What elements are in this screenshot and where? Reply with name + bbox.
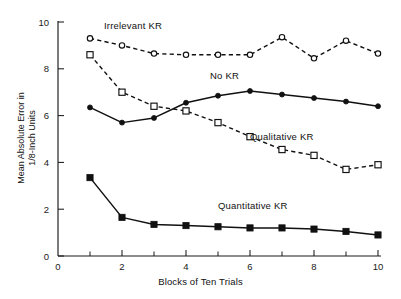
data-point-marker (279, 35, 284, 40)
series-label-quantitative-kr: Quantitative KR (218, 200, 288, 211)
series-label-no-kr: No KR (210, 70, 239, 81)
data-point-marker (119, 214, 125, 220)
data-point-marker (247, 225, 253, 231)
data-point-marker (119, 43, 124, 48)
data-point-marker (375, 51, 380, 56)
data-point-marker (183, 52, 188, 57)
data-point-marker (216, 93, 221, 98)
data-point-marker (312, 96, 317, 101)
series-label-irrelevant-kr: Irrelevant KR (104, 20, 162, 31)
x-axis-tick-label: 0 (55, 261, 60, 272)
data-point-marker (87, 36, 92, 41)
data-point-marker (311, 56, 316, 61)
data-point-marker (87, 175, 93, 181)
series-line (90, 37, 378, 58)
data-point-marker (375, 162, 381, 168)
x-axis-tick-label: 8 (311, 261, 316, 272)
data-point-marker (184, 100, 189, 105)
data-point-marker (183, 108, 189, 114)
data-point-marker (248, 89, 253, 94)
data-point-marker (311, 226, 317, 232)
data-point-marker (343, 166, 349, 172)
data-point-marker (152, 115, 157, 120)
data-point-marker (215, 52, 220, 57)
data-point-marker (151, 103, 157, 109)
series-no-kr (88, 89, 381, 126)
series-line (90, 91, 378, 123)
data-point-marker (279, 225, 285, 231)
chart-plot-area: 02468100246810 (0, 0, 401, 299)
series-irrelevant-kr (87, 35, 380, 61)
y-axis-title-line-1: Mean Absolute Error in (16, 53, 27, 223)
x-axis-tick-label: 4 (183, 261, 188, 272)
data-point-marker (151, 51, 156, 56)
data-point-marker (151, 221, 157, 227)
data-point-marker (183, 222, 189, 228)
y-axis-tick-label: 4 (44, 157, 49, 168)
chart-container: 02468100246810 Irrelevant KRNo KRQualita… (0, 0, 401, 299)
x-axis-title: Blocks of Ten Trials (0, 276, 401, 287)
data-point-marker (376, 104, 381, 109)
data-point-marker (247, 52, 252, 57)
data-point-marker (88, 105, 93, 110)
data-point-marker (279, 146, 285, 152)
y-axis-title: Mean Absolute Error in 1/8-Inch Units (16, 53, 38, 223)
x-axis-tick-label: 10 (373, 261, 384, 272)
data-point-marker (119, 89, 125, 95)
data-point-marker (343, 38, 348, 43)
y-axis-tick-label: 8 (44, 63, 49, 74)
y-axis-tick-label: 10 (38, 17, 49, 28)
series-label-qualitative-kr: Qualitative KR (250, 131, 314, 142)
data-point-marker (120, 120, 125, 125)
y-axis-tick-label: 0 (44, 251, 49, 262)
y-axis-title-line-2: 1/8-Inch Units (27, 53, 38, 223)
x-axis-tick-label: 2 (119, 261, 124, 272)
y-axis-tick-label: 2 (44, 204, 49, 215)
data-point-marker (215, 224, 221, 230)
data-point-marker (215, 120, 221, 126)
data-point-marker (87, 52, 93, 58)
data-point-marker (343, 228, 349, 234)
data-point-marker (344, 99, 349, 104)
x-axis-tick-label: 6 (247, 261, 252, 272)
data-point-marker (311, 152, 317, 158)
data-point-marker (375, 232, 381, 238)
data-point-marker (280, 92, 285, 97)
y-axis-tick-label: 6 (44, 110, 49, 121)
